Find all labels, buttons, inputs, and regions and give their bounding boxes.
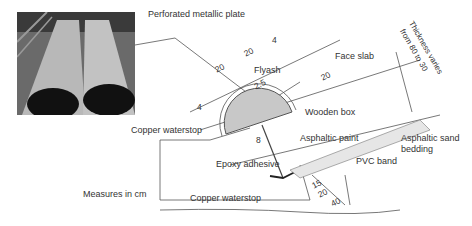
label-flyash: Flyash [254, 66, 281, 75]
dim-8: 8 [256, 136, 261, 145]
label-measures: Measures in cm [83, 190, 147, 199]
dim-4-right: 4 [272, 36, 277, 45]
label-face-slab: Face slab [335, 52, 374, 61]
label-asphaltic-sand-1: Asphaltic sand [401, 134, 460, 143]
label-asphaltic-paint: Asphaltic paint [300, 134, 359, 143]
label-pvc-band: PVC band [356, 157, 397, 166]
dim-4-left: 4 [197, 103, 202, 112]
label-wooden-box: Wooden box [305, 108, 355, 117]
label-copper-waterstop-top: Copper waterstop [131, 126, 202, 135]
label-epoxy-adhesive: Epoxy adhesive [216, 160, 280, 169]
label-perforated-plate: Perforated metallic plate [148, 10, 245, 19]
label-asphaltic-sand-2: bedding [401, 145, 433, 154]
label-copper-waterstop-bottom: Copper waterstop [190, 194, 261, 203]
